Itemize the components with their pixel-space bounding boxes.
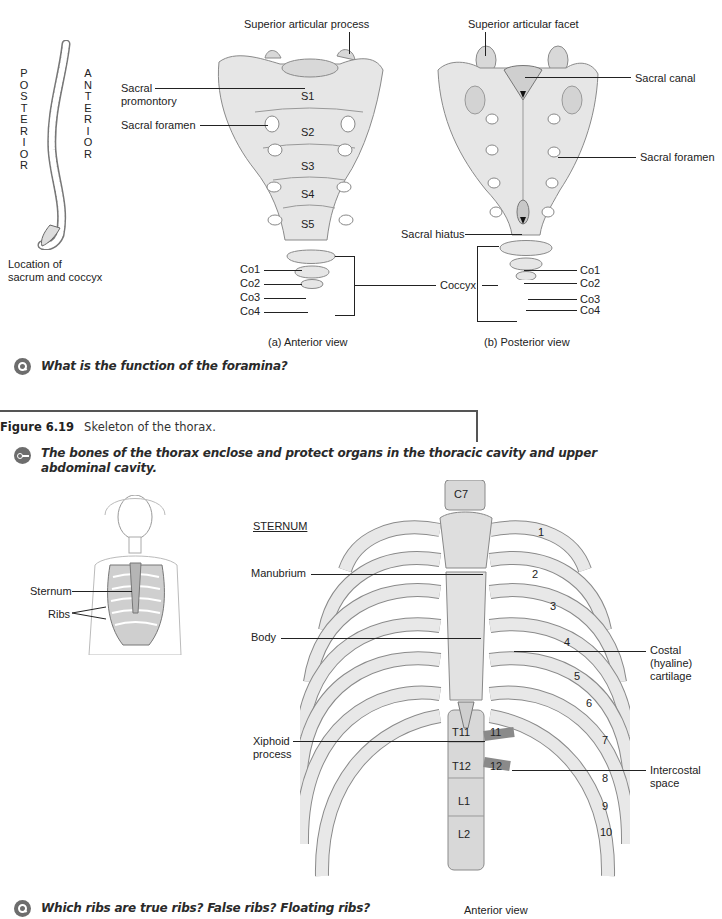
leader-line: [526, 310, 577, 311]
bracket-line: [335, 256, 355, 257]
label-superior-articular-process: Superior articular process: [244, 18, 369, 31]
label-intercostal-1: Intercostal: [650, 764, 701, 777]
label-xiphoid-1: Xiphoid: [253, 735, 290, 748]
rib-number-4: 4: [564, 636, 570, 648]
segment-s2: S2: [301, 126, 314, 138]
leader-line: [524, 270, 577, 271]
leader-line: [354, 285, 436, 286]
sacrum-anterior-illustration: S1 S2 S3 S4 S5: [205, 40, 385, 290]
question-icon: [14, 358, 31, 375]
leader-line: [264, 284, 302, 285]
vertebra-t12: T12: [452, 760, 471, 772]
label-body: Body: [251, 631, 276, 644]
question-ribs: Which ribs are true ribs? False ribs? Fl…: [41, 901, 370, 915]
key-icon: [14, 447, 31, 464]
question-icon: [14, 900, 31, 917]
label-co3-anterior: Co3: [240, 291, 260, 304]
label-sacral-promontory-2: promontory: [121, 95, 177, 108]
label-co1-posterior: Co1: [580, 264, 600, 277]
leader-line: [155, 88, 305, 89]
label-co1-anterior: Co1: [240, 263, 260, 276]
figure-number: Figure 6.19: [0, 420, 74, 434]
leader-line: [514, 651, 646, 652]
label-co4-posterior: Co4: [580, 304, 600, 317]
figure-divider: [0, 410, 478, 412]
label-sacral-hiatus: Sacral hiatus: [401, 228, 465, 241]
leader-line: [524, 283, 577, 284]
caption-posterior-view: (b) Posterior view: [484, 336, 570, 348]
spine-caption-line2: sacrum and coccyx: [8, 271, 102, 284]
segment-s1: S1: [301, 90, 314, 102]
rib-number-6: 6: [586, 697, 592, 709]
rib-number-3: 3: [550, 600, 556, 612]
figure-title-text: Skeleton of the thorax.: [84, 420, 216, 434]
leader-line: [512, 770, 646, 771]
rib-number-2: 2: [532, 568, 538, 580]
rib-number-12: 12: [490, 760, 502, 772]
rib-number-1: 1: [538, 526, 544, 538]
label-co2-posterior: Co2: [580, 277, 600, 290]
caption-anterior-view: (a) Anterior view: [268, 336, 347, 348]
leader-line: [349, 32, 350, 54]
segment-s5: S5: [301, 218, 314, 230]
label-costal-3: cartilage: [650, 670, 692, 683]
anterior-label: A N T E R I O R: [82, 68, 94, 160]
label-sacral-foramen-posterior: Sacral foramen: [640, 151, 715, 164]
label-co2-anterior: Co2: [240, 277, 260, 290]
leader-line: [558, 157, 636, 158]
leader-line: [485, 32, 486, 56]
spine-caption-line1: Location of: [8, 258, 62, 271]
label-costal-1: Costal: [650, 644, 681, 657]
leader-line: [311, 574, 483, 575]
vertebra-c7: C7: [454, 488, 468, 500]
vertebra-l1: L1: [458, 795, 470, 807]
label-sacral-canal: Sacral canal: [635, 72, 696, 85]
leader-line: [525, 77, 631, 78]
leader-line: [293, 741, 485, 742]
label-coccyx: Coccyx: [440, 279, 476, 292]
thumb-label-sternum: Sternum: [30, 585, 72, 598]
label-xiphoid-2: process: [253, 748, 292, 761]
bracket-line: [335, 315, 355, 316]
leader-line: [72, 591, 132, 592]
caption-thorax-anterior: Anterior view: [464, 904, 528, 916]
rib-number-10: 10: [600, 826, 612, 838]
leader-line: [264, 312, 308, 313]
bracket-line: [354, 256, 355, 316]
rib-number-8: 8: [602, 772, 608, 784]
label-sacral-promontory-1: Sacral: [121, 82, 152, 95]
leader-line: [281, 638, 481, 639]
spine-illustration: [36, 40, 76, 250]
label-intercostal-2: space: [650, 777, 679, 790]
leader-line: [465, 234, 522, 235]
rib-number-9: 9: [602, 800, 608, 812]
bracket-line: [477, 321, 517, 322]
vertebra-t11: T11: [452, 726, 470, 738]
figure-title: Figure 6.19Skeleton of the thorax.: [0, 420, 216, 434]
sacrum-posterior-illustration: [430, 40, 600, 280]
segment-s3: S3: [301, 160, 314, 172]
vertebra-l2: L2: [458, 828, 470, 840]
posterior-label: P O S T E R I O R: [18, 68, 30, 172]
leader-line: [200, 125, 268, 126]
label-costal-2: (hyaline): [650, 657, 692, 670]
rib-number-11: 11: [490, 726, 501, 738]
label-co4-anterior: Co4: [240, 305, 260, 318]
thumb-label-ribs: Ribs: [48, 608, 70, 621]
segment-s4: S4: [301, 188, 314, 200]
figure-divider: [476, 410, 478, 442]
leader-line: [482, 285, 498, 286]
rib-cage-illustration: C7 T11 T12 L1 L2 1 2 3 4 5 6 7 8 9 10 11…: [300, 480, 630, 880]
rib-number-5: 5: [574, 670, 580, 682]
leader-line: [264, 270, 302, 271]
label-manubrium: Manubrium: [251, 567, 306, 580]
leader-line: [528, 299, 577, 300]
skeleton-thumbnail: [85, 495, 195, 655]
label-sacral-foramen-anterior: Sacral foramen: [121, 119, 196, 132]
rib-number-7: 7: [602, 734, 608, 746]
question-foramina: What is the function of the foramina?: [41, 359, 288, 373]
key-message: The bones of the thorax enclose and prot…: [41, 446, 601, 476]
leader-line: [264, 298, 306, 299]
label-superior-articular-facet: Superior articular facet: [468, 18, 579, 31]
ribs-pointer-lines: [72, 605, 112, 625]
